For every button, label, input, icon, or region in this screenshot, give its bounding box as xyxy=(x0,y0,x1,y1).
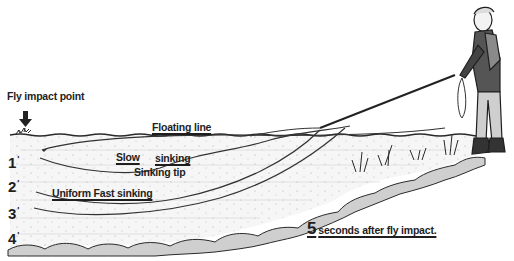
fly-line-illustration xyxy=(0,0,514,261)
depth-marker-4: 4' xyxy=(8,231,19,246)
impact-arrow-icon xyxy=(19,111,32,127)
angler-figure xyxy=(460,7,505,154)
caption-text: seconds after fly impact. xyxy=(318,224,436,236)
splash-icon xyxy=(16,128,31,134)
sinking-tip-label: Sinking tip xyxy=(134,167,185,178)
depth-marker-3: 3' xyxy=(8,206,19,221)
depth-marker-1: 1' xyxy=(8,155,19,170)
slow-label: Slow xyxy=(116,152,140,163)
uniform-fast-sinking-label: Uniform Fast sinking xyxy=(52,188,152,199)
floating-line-label: Floating line xyxy=(152,122,211,133)
caption-number: 5 xyxy=(307,219,316,238)
caption: 5seconds after fly impact. xyxy=(307,220,436,237)
depth-marker-2: 2' xyxy=(8,179,19,194)
line-loop xyxy=(458,78,466,118)
fly-impact-point-label: Fly impact point xyxy=(7,91,84,102)
sinking-label: sinking xyxy=(155,153,190,164)
fly-rod xyxy=(320,75,455,128)
